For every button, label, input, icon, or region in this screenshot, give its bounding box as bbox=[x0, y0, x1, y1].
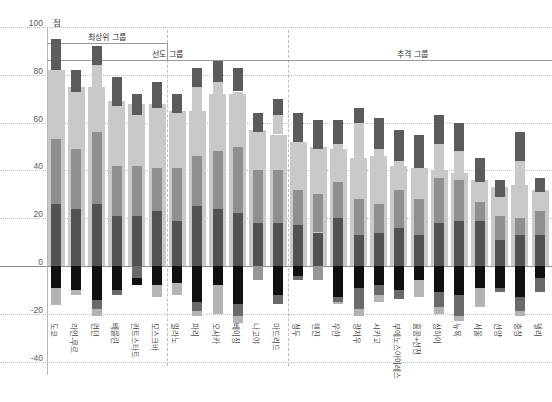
bar-neg-dark bbox=[354, 288, 364, 310]
bar-neg-light bbox=[374, 295, 384, 302]
city-label: 라인-루르 bbox=[69, 323, 80, 354]
bar-neg-black bbox=[273, 266, 283, 295]
bar-cap-range bbox=[132, 94, 142, 116]
bar-dark-segment bbox=[354, 235, 364, 266]
bar-mid-segment bbox=[273, 170, 283, 223]
bar-dark-segment bbox=[475, 221, 485, 266]
city-label: 베를린 bbox=[110, 323, 121, 344]
group-label-chase: 추격 그룹 bbox=[397, 48, 427, 59]
bar-neg-black bbox=[414, 266, 424, 280]
city-label: 홍콩+선전 bbox=[412, 323, 423, 355]
group-label-lead: 선도 그룹 bbox=[152, 48, 182, 59]
bar-neg-light bbox=[414, 280, 424, 297]
bar-neg-dark bbox=[454, 295, 464, 317]
bar-cap-range bbox=[172, 94, 182, 113]
bar-cap-range bbox=[92, 46, 102, 65]
city-label: 오사카 bbox=[211, 323, 222, 344]
bar-neg-black bbox=[293, 266, 303, 276]
bar-dark-segment bbox=[273, 223, 283, 266]
bar-cap-range bbox=[475, 158, 485, 182]
bar-neg-black bbox=[172, 266, 182, 283]
city-label: 상하이 bbox=[432, 323, 443, 344]
bar-cap-range bbox=[192, 68, 202, 87]
city-label: 선양 bbox=[493, 323, 504, 337]
bar-cap-range bbox=[51, 39, 61, 70]
y-axis-tick-label: 0 bbox=[0, 257, 43, 267]
city-label: 서울 bbox=[473, 323, 484, 337]
city-label: 델리 bbox=[533, 323, 544, 337]
bar-range-light bbox=[454, 151, 464, 173]
bar-mid-segment bbox=[233, 147, 243, 214]
bar-neg-light bbox=[51, 288, 61, 306]
bar-cap-range bbox=[434, 115, 444, 144]
bar-range-light bbox=[394, 161, 404, 166]
bar-cap-range bbox=[112, 77, 122, 106]
city-label: 뉴욕 bbox=[452, 323, 463, 337]
city-label: 마드리드 bbox=[271, 323, 282, 351]
bar-neg-black bbox=[434, 266, 444, 292]
bar-neg-light bbox=[515, 311, 525, 316]
bar-dark-segment bbox=[172, 221, 182, 266]
city-label: 부에노스아이레스 bbox=[392, 323, 403, 379]
bar-cap-range bbox=[313, 120, 323, 149]
bar-neg-black bbox=[192, 266, 202, 302]
bar-range-light bbox=[192, 87, 202, 111]
bar-dark-segment bbox=[293, 225, 303, 266]
bar-neg-light bbox=[454, 316, 464, 321]
bar-neg-light bbox=[152, 285, 162, 297]
bar-mid-segment bbox=[374, 204, 384, 233]
bar-dark-segment bbox=[132, 216, 142, 266]
bar-neg-black bbox=[71, 266, 81, 290]
gridline bbox=[0, 75, 552, 76]
bar-neg-black bbox=[233, 266, 243, 304]
bar-range-light bbox=[233, 92, 243, 94]
bar-neg-dark bbox=[233, 304, 243, 316]
bar-range-light bbox=[515, 161, 525, 185]
bar-dark-segment bbox=[233, 213, 243, 266]
city-label: 란트스타트 bbox=[130, 323, 141, 358]
bar-mid-segment bbox=[495, 216, 505, 240]
y-axis-tick-label: -40 bbox=[0, 353, 43, 363]
bar-cap-range bbox=[213, 61, 223, 83]
bar-neg-dark bbox=[515, 297, 525, 311]
city-label: 충칭 bbox=[513, 323, 524, 337]
bar-mid-segment bbox=[213, 151, 223, 208]
bar-dark-segment bbox=[394, 228, 404, 266]
bar-dark-segment bbox=[535, 235, 545, 266]
gridline bbox=[0, 314, 552, 315]
bar-neg-light bbox=[434, 307, 444, 314]
city-label: 톈진 bbox=[311, 323, 322, 337]
bar-neg-black bbox=[333, 266, 343, 297]
city-label: 런던 bbox=[90, 323, 101, 337]
bar-range-light bbox=[374, 149, 384, 156]
bar-cap-range bbox=[394, 130, 404, 161]
bar-neg-black bbox=[132, 278, 142, 285]
city-label: 시카고 bbox=[372, 323, 383, 344]
bar-neg-black bbox=[475, 266, 485, 288]
bar-mid-segment bbox=[92, 132, 102, 204]
bar-dark-segment bbox=[71, 209, 81, 266]
bar-dark-segment bbox=[192, 206, 202, 266]
city-label: 우한 bbox=[331, 323, 342, 337]
bar-mid-segment bbox=[253, 170, 263, 223]
bar-neg-black bbox=[454, 266, 464, 295]
bar-dark-segment bbox=[515, 235, 525, 266]
bar-range-light bbox=[354, 123, 364, 159]
bar-cap-range bbox=[333, 120, 343, 144]
y-axis-tick-label: -20 bbox=[0, 305, 43, 315]
bar-cap-range bbox=[152, 82, 162, 108]
bar-dark-segment bbox=[152, 211, 162, 266]
bar-mid-segment bbox=[454, 180, 464, 221]
bar-mid-segment bbox=[354, 199, 364, 235]
bar-neg-light bbox=[192, 311, 202, 316]
y-axis-tick-label: 60 bbox=[0, 114, 43, 124]
bar-neg-black bbox=[535, 266, 545, 278]
bar-mid-segment bbox=[132, 166, 142, 216]
bar-neg-dark bbox=[273, 295, 283, 305]
bar-cap-range bbox=[495, 180, 505, 197]
bar-dark-segment bbox=[213, 209, 223, 266]
city-label: 도쿄 bbox=[49, 323, 60, 337]
bar-mid-segment bbox=[192, 156, 202, 206]
bar-mid-segment bbox=[515, 218, 525, 235]
city-label: 밀라노 bbox=[170, 323, 181, 344]
